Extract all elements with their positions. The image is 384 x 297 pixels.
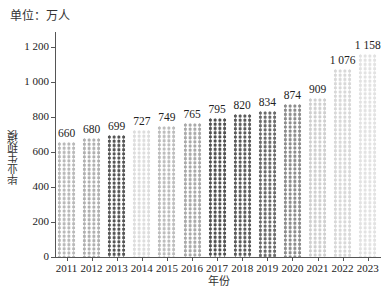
x-tick-mark — [167, 257, 168, 261]
x-tick-label: 2013 — [103, 262, 131, 274]
x-tick-label: 2014 — [128, 262, 156, 274]
y-tick-label: 400 — [9, 180, 49, 192]
bar-2019 — [258, 111, 277, 257]
x-tick-label: 2022 — [329, 262, 357, 274]
x-tick-mark — [292, 257, 293, 261]
x-tick-label: 2011 — [53, 262, 81, 274]
y-tick-label: 200 — [9, 215, 49, 227]
x-tick-mark — [318, 257, 319, 261]
y-tick-mark — [51, 257, 55, 258]
y-tick-mark — [51, 152, 55, 153]
y-tick-label: 600 — [9, 145, 49, 157]
x-tick-label: 2021 — [304, 262, 332, 274]
bar-2017 — [208, 118, 227, 257]
x-tick-mark — [267, 257, 268, 261]
x-tick-label: 2020 — [278, 262, 306, 274]
y-tick-mark — [51, 222, 55, 223]
bar-2016 — [183, 123, 202, 257]
x-tick-label: 2018 — [228, 262, 256, 274]
x-tick-mark — [343, 257, 344, 261]
value-label: 909 — [298, 83, 338, 95]
bar-2012 — [82, 138, 101, 257]
x-tick-mark — [192, 257, 193, 261]
bar-2018 — [233, 114, 252, 258]
y-tick-mark — [51, 187, 55, 188]
y-tick-label: 800 — [9, 110, 49, 122]
bar-2020 — [283, 104, 302, 257]
x-tick-label: 2015 — [153, 262, 181, 274]
y-tick-mark — [51, 117, 55, 118]
bar-2011 — [57, 142, 76, 258]
x-tick-mark — [242, 257, 243, 261]
x-tick-mark — [67, 257, 68, 261]
y-tick-label: 1 000 — [9, 75, 49, 87]
value-label: 1 158 — [348, 39, 384, 51]
x-axis-label: 年份 — [208, 272, 230, 288]
y-tick-mark — [51, 47, 55, 48]
bar-2015 — [157, 126, 176, 257]
bar-2021 — [308, 98, 327, 257]
y-tick-label: 0 — [9, 250, 49, 262]
y-axis-line — [55, 32, 56, 258]
y-tick-mark — [51, 82, 55, 83]
y-tick-label: 1 200 — [9, 40, 49, 52]
y-axis-label: 毕业生规模 — [8, 130, 22, 185]
bar-chart: 单位：万人 毕业生规模 年份 02004006008001 0001 200 6… — [0, 0, 384, 297]
unit-label: 单位：万人 — [10, 6, 70, 23]
bar-2014 — [132, 130, 151, 257]
bar-2022 — [333, 69, 352, 257]
x-tick-mark — [117, 257, 118, 261]
x-tick-mark — [92, 257, 93, 261]
bar-2013 — [107, 135, 126, 257]
x-tick-mark — [217, 257, 218, 261]
x-tick-label: 2012 — [78, 262, 106, 274]
x-tick-label: 2019 — [253, 262, 281, 274]
value-label: 1 076 — [323, 54, 363, 66]
x-tick-mark — [368, 257, 369, 261]
x-tick-label: 2017 — [203, 262, 231, 274]
bar-2023 — [358, 54, 377, 257]
x-tick-label: 2023 — [354, 262, 382, 274]
x-tick-mark — [142, 257, 143, 261]
x-tick-label: 2016 — [178, 262, 206, 274]
